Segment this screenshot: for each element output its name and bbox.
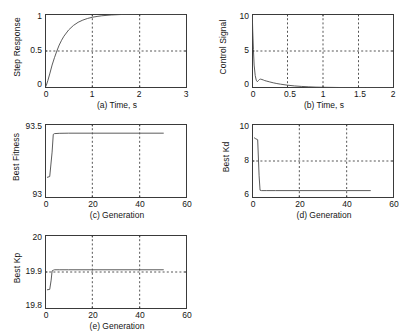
subplot-c-ylabel: Best Fitness: [11, 122, 21, 192]
subplot-b-xtick-15: 1.5: [348, 89, 372, 99]
subplot-c-best-fitness: Best Fitness 93.5 93 0 20 40 60 (c) Gene…: [0, 110, 207, 215]
subplot-a-xtick-2: 2: [129, 89, 149, 99]
subplot-a-ytick-05: 0.5: [18, 45, 42, 55]
subplot-c-xtick-40: 40: [128, 199, 152, 209]
subplot-b-ylabel: Control Signal: [218, 12, 228, 82]
subplot-b-control-signal: Control Signal 10 5 0 0 0.5 1 1.5 2 (b) …: [207, 0, 414, 105]
subplot-e-xtick-0: 0: [36, 310, 56, 320]
subplot-b-xtick-1: 1: [313, 89, 333, 99]
figure-panel: Step Response 1 0.5 0 0 1 2 3 (a) Time, …: [0, 0, 414, 333]
subplot-d-xtick-20: 20: [288, 199, 312, 209]
subplot-c-plot-area: [45, 124, 187, 198]
subplot-a-step-response: Step Response 1 0.5 0 0 1 2 3 (a) Time, …: [0, 0, 207, 105]
subplot-b-ytick-5: 5: [229, 45, 249, 55]
subplot-a-xtick-0: 0: [36, 89, 56, 99]
subplot-b-plot-area: [252, 14, 394, 88]
subplot-c-ytick-93: 93: [18, 189, 42, 199]
subplot-e-best-kp: Best Kp 20 19.9 19.8 0 20 40 60 (e) Gene…: [0, 221, 207, 333]
subplot-d-ytick-8: 8: [229, 155, 249, 165]
subplot-a-xlabel: (a) Time, s: [46, 100, 188, 110]
subplot-d-xtick-60: 60: [382, 199, 406, 209]
subplot-e-xlabel: (e) Generation: [46, 321, 188, 331]
subplot-d-xlabel: (d) Generation: [253, 210, 395, 220]
subplot-e-ytick-198: 19.8: [10, 300, 42, 310]
subplot-d-ytick-10: 10: [225, 121, 249, 131]
subplot-c-xlabel: (c) Generation: [46, 210, 188, 220]
subplot-a-plot-area: [45, 14, 187, 88]
subplot-e-xtick-40: 40: [128, 310, 152, 320]
subplot-b-xtick-05: 0.5: [278, 89, 302, 99]
subplot-e-xtick-60: 60: [175, 310, 199, 320]
subplot-a-xtick-3: 3: [176, 89, 196, 99]
subplot-e-xtick-20: 20: [81, 310, 105, 320]
subplot-a-ytick-1: 1: [22, 11, 42, 21]
subplot-b-xtick-0: 0: [243, 89, 263, 99]
subplot-c-xtick-20: 20: [81, 199, 105, 209]
subplot-c-xtick-60: 60: [175, 199, 199, 209]
subplot-d-xtick-40: 40: [335, 199, 359, 209]
subplot-d-plot-area: [252, 124, 394, 198]
subplot-e-plot-area: [45, 235, 187, 309]
subplot-e-ytick-199: 19.9: [10, 266, 42, 276]
subplot-c-xtick-0: 0: [36, 199, 56, 209]
subplot-d-ytick-6: 6: [229, 189, 249, 199]
subplot-a-ytick-0: 0: [22, 79, 42, 89]
subplot-d-best-kd: Best Kd 10 8 6 0 20 40 60 (d) Generation: [207, 110, 414, 215]
subplot-b-xlabel: (b) Time, s: [253, 100, 395, 110]
subplot-e-ytick-20: 20: [18, 232, 42, 242]
subplot-b-ytick-10: 10: [225, 11, 249, 21]
subplot-d-xtick-0: 0: [243, 199, 263, 209]
subplot-a-xtick-1: 1: [82, 89, 102, 99]
subplot-c-ytick-935: 93.5: [12, 121, 42, 131]
subplot-b-xtick-2: 2: [383, 89, 403, 99]
subplot-b-ytick-0: 0: [229, 79, 249, 89]
